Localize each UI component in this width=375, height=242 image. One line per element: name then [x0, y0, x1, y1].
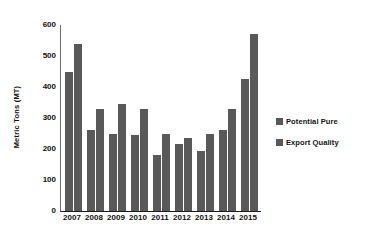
legend-item[interactable]: Export Quality	[276, 138, 339, 147]
bar-group	[238, 25, 260, 211]
y-axis-tick: 0	[52, 207, 56, 215]
x-axis-tick: 2012	[171, 213, 193, 222]
bar	[162, 134, 170, 212]
y-axis-tick: 500	[43, 52, 56, 60]
bar	[96, 109, 104, 211]
legend-swatch-icon	[276, 118, 283, 125]
x-axis-tick: 2009	[105, 213, 127, 222]
bar-groups	[61, 25, 261, 211]
legend-label: Export Quality	[286, 138, 339, 147]
bar	[140, 109, 148, 211]
x-axis-tick: 2011	[149, 213, 171, 222]
x-axis-tick: 2013	[193, 213, 215, 222]
bar	[197, 151, 205, 211]
legend-item[interactable]: Potential Pure	[276, 117, 339, 126]
bar-group	[216, 25, 238, 211]
bar	[250, 34, 258, 211]
bar-group	[128, 25, 150, 211]
bar-chart: Metric Tons (MT) 6005004003002001000 200…	[0, 0, 375, 242]
y-axis-tick: 200	[43, 145, 56, 153]
y-axis-title-text: Metric Tons (MT)	[12, 72, 21, 162]
x-axis-tick: 2008	[83, 213, 105, 222]
bar	[228, 109, 236, 211]
x-axis-tick: 2014	[215, 213, 237, 222]
bar	[241, 79, 249, 211]
bar-group	[194, 25, 216, 211]
bar	[74, 44, 82, 211]
legend-swatch-icon	[276, 139, 283, 146]
x-axis-tick: 2015	[237, 213, 259, 222]
bar	[184, 138, 192, 211]
x-axis-tick-labels: 200720082009201020112012201320142015	[60, 213, 260, 222]
bar	[219, 130, 227, 211]
legend: Potential PureExport Quality	[276, 117, 339, 147]
bar	[109, 134, 117, 212]
y-axis-tick: 100	[43, 176, 56, 184]
bar-group	[84, 25, 106, 211]
bar	[87, 130, 95, 211]
bar	[175, 144, 183, 211]
bar-group	[106, 25, 128, 211]
y-axis-tick: 600	[43, 21, 56, 29]
bar	[118, 104, 126, 211]
bar	[65, 72, 73, 212]
bar-group	[150, 25, 172, 211]
y-axis-tick: 400	[43, 83, 56, 91]
plot-area	[60, 25, 261, 212]
bar	[206, 134, 214, 212]
legend-label: Potential Pure	[286, 117, 338, 126]
y-axis-tick-labels: 6005004003002001000	[24, 18, 56, 218]
x-axis-tick: 2007	[61, 213, 83, 222]
bar-group	[62, 25, 84, 211]
bar	[131, 135, 139, 211]
y-axis-tick: 300	[43, 114, 56, 122]
bar-group	[172, 25, 194, 211]
bar	[153, 155, 161, 211]
x-axis-tick: 2010	[127, 213, 149, 222]
y-axis-title: Metric Tons (MT)	[2, 0, 11, 72]
